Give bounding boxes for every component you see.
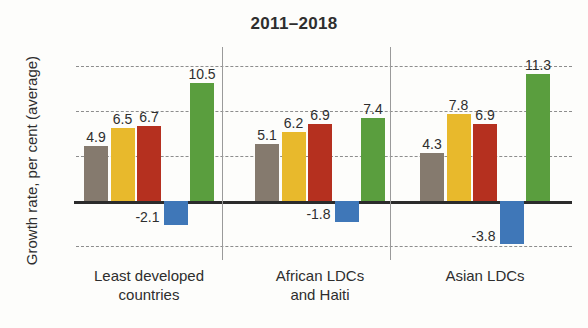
bar: [361, 118, 385, 201]
zero-axis-line: [74, 201, 572, 204]
x-axis-category-label: Least developedcountries: [69, 266, 229, 304]
x-axis-category-label-line: African LDCs: [240, 266, 400, 285]
x-axis-category-label-line: countries: [69, 285, 229, 304]
bar: [308, 124, 332, 202]
bar: [420, 153, 444, 201]
bar-value-label: -2.1: [120, 209, 160, 225]
bar: [335, 201, 359, 221]
bar: [190, 83, 214, 201]
bar-value-label: 10.5: [180, 66, 224, 82]
x-axis-category-labels: Least developedcountriesAfrican LDCsand …: [76, 266, 572, 316]
bar: [137, 126, 161, 201]
bar: [500, 201, 524, 244]
bar: [526, 74, 550, 201]
chart-title: 2011–2018: [0, 14, 588, 34]
bar: [255, 144, 279, 201]
bar: [473, 124, 497, 202]
bar-value-label: 11.3: [516, 57, 560, 73]
plot-area: 12840-44.96.56.7-2.110.55.16.26.9-1.87.4…: [76, 55, 572, 260]
x-axis-category-label-line: Least developed: [69, 266, 229, 285]
bar-chart: 2011–2018 Growth rate, per cent (average…: [0, 0, 588, 328]
bar: [111, 128, 135, 201]
bar-value-label: 6.9: [298, 107, 342, 123]
gridline: [76, 66, 572, 67]
x-axis-category-label-line: and Haiti: [240, 285, 400, 304]
bar: [447, 114, 471, 202]
bar: [282, 132, 306, 202]
y-axis-label: Growth rate, per cent (average): [23, 36, 40, 286]
bar-value-label: -1.8: [291, 206, 331, 222]
bar: [164, 201, 188, 225]
x-axis-category-label-line: Asian LDCs: [405, 266, 565, 285]
x-axis-category-label: African LDCsand Haiti: [240, 266, 400, 304]
group-separator: [390, 47, 391, 260]
bar: [84, 146, 108, 201]
bar-value-label: 6.7: [127, 109, 171, 125]
bar-value-label: -3.8: [456, 228, 496, 244]
x-axis-category-label: Asian LDCs: [405, 266, 565, 285]
bar-value-label: 7.4: [351, 101, 395, 117]
bar-value-label: 6.9: [463, 107, 507, 123]
gridline: [76, 246, 572, 247]
